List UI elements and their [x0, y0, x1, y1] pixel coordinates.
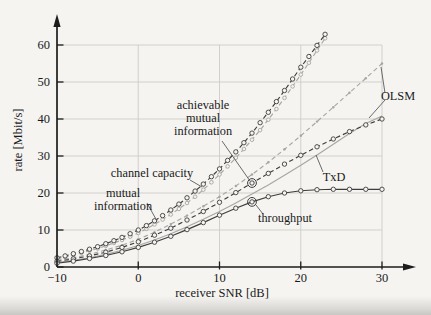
data-point-marker — [282, 88, 286, 92]
data-point-marker — [266, 195, 270, 199]
data-point-marker — [185, 218, 189, 222]
data-point-marker — [291, 85, 295, 89]
data-point-marker — [217, 200, 221, 204]
data-point-marker — [177, 207, 181, 211]
data-point-marker — [160, 213, 164, 217]
data-point-marker — [193, 189, 197, 193]
data-point-marker — [185, 201, 189, 205]
data-point-marker — [225, 158, 229, 162]
data-point-marker — [300, 135, 302, 137]
data-point-marker — [315, 188, 319, 192]
data-point-marker — [299, 73, 303, 77]
data-point-marker — [169, 226, 173, 230]
data-point-marker — [120, 235, 124, 239]
data-point-marker — [282, 191, 286, 195]
annotation-text-txd: TxD — [323, 170, 346, 184]
rate-vs-snr-chart: −1001020300102030405060receiver SNR [dB]… — [0, 0, 431, 315]
data-point-marker — [169, 234, 173, 238]
data-point-marker — [193, 195, 197, 199]
data-point-marker — [218, 173, 222, 177]
data-point-marker — [299, 65, 303, 69]
data-point-marker — [202, 188, 206, 192]
annotation-text-throughput: throughput — [258, 211, 313, 225]
x-tick-label: 20 — [295, 271, 308, 285]
data-point-marker — [144, 223, 148, 227]
data-point-marker — [283, 96, 287, 100]
data-point-marker — [202, 205, 204, 207]
data-point-marker — [250, 131, 254, 135]
data-point-marker — [177, 202, 181, 206]
y-tick-label: 30 — [38, 149, 51, 163]
data-point-marker — [152, 233, 156, 237]
data-point-marker — [380, 117, 384, 121]
data-point-marker — [365, 77, 367, 79]
figure-wrap: −1001020300102030405060receiver SNR [dB]… — [0, 0, 431, 315]
data-point-marker — [380, 187, 384, 191]
data-point-marker — [128, 232, 132, 236]
data-point-marker — [266, 171, 270, 175]
annotation-channel-capacity: channel capacity — [111, 166, 202, 187]
data-point-marker — [104, 253, 108, 257]
data-point-marker — [258, 128, 262, 132]
x-axis-arrow-icon — [403, 263, 416, 270]
data-point-marker — [185, 196, 189, 200]
data-point-marker — [63, 254, 67, 258]
data-point-marker — [364, 123, 368, 127]
annotation-text-achievable-mutual-information: achievablemutualinformation — [174, 98, 232, 138]
y-tick-label: 10 — [38, 223, 51, 237]
data-point-marker — [201, 220, 205, 224]
data-point-marker — [315, 43, 319, 47]
data-point-marker — [316, 120, 318, 122]
data-point-marker — [250, 200, 254, 204]
y-axis-arrow-icon — [53, 14, 60, 27]
data-point-marker — [251, 173, 253, 175]
data-point-marker — [201, 209, 205, 213]
x-tick-label: −10 — [47, 271, 67, 285]
data-point-marker — [120, 245, 124, 249]
data-point-marker — [348, 92, 350, 94]
data-point-marker — [71, 259, 75, 263]
data-point-marker — [79, 249, 83, 253]
data-point-marker — [242, 147, 246, 151]
y-tick-label: 60 — [38, 38, 51, 52]
annotation-leader-line — [190, 180, 202, 187]
data-point-marker — [274, 99, 278, 103]
x-tick-label: 10 — [213, 271, 226, 285]
axes — [53, 14, 416, 271]
data-point-marker — [87, 247, 91, 251]
data-point-marker — [226, 165, 230, 169]
data-point-marker — [315, 145, 319, 149]
annotation-throughput: throughput — [256, 205, 313, 225]
x-axis-title: receiver SNR [dB] — [175, 286, 269, 300]
data-point-marker — [185, 227, 189, 231]
x-tick-label: 0 — [135, 271, 141, 285]
data-point-marker — [169, 208, 173, 212]
data-point-marker — [332, 106, 334, 108]
data-point-marker — [364, 187, 368, 191]
data-point-marker — [136, 245, 140, 249]
data-point-marker — [283, 148, 285, 150]
data-point-marker — [258, 121, 262, 125]
data-point-marker — [120, 250, 124, 254]
data-point-marker — [267, 118, 271, 122]
data-point-marker — [234, 150, 238, 154]
data-point-marker — [266, 110, 270, 114]
data-point-marker — [170, 223, 172, 225]
data-point-marker — [331, 137, 335, 141]
data-point-marker — [186, 214, 188, 216]
data-point-marker — [95, 245, 99, 249]
data-point-marker — [307, 54, 311, 58]
data-point-marker — [242, 141, 246, 145]
data-point-marker — [315, 49, 319, 53]
y-axis-title: rate [Mbit/s] — [11, 109, 25, 172]
data-point-marker — [323, 37, 327, 41]
data-point-marker — [136, 228, 140, 232]
data-point-marker — [282, 162, 286, 166]
annotation-olsm: OLSM — [369, 67, 415, 118]
data-point-marker — [152, 240, 156, 244]
data-point-marker — [169, 213, 173, 217]
data-point-marker — [299, 153, 303, 157]
y-tick-label: 0 — [44, 260, 50, 274]
data-point-marker — [267, 161, 269, 163]
data-point-marker — [218, 196, 220, 198]
